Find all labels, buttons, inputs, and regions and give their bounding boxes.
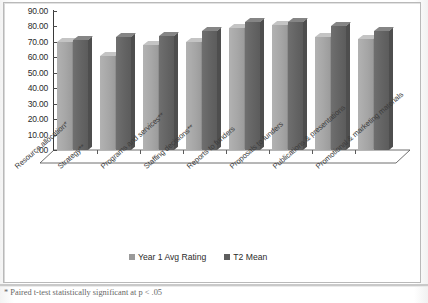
bar-t2mean xyxy=(245,22,260,150)
bar-side-face xyxy=(303,19,307,150)
page-edge-divider-shadow xyxy=(0,286,428,287)
bar-side-face xyxy=(88,37,92,150)
bar-front-face xyxy=(288,22,303,150)
x-axis-category-labels: Resource allocation*Strategy**Programs a… xyxy=(0,150,428,250)
bar-t2mean xyxy=(374,31,389,150)
y-axis-tick-mark xyxy=(53,135,57,136)
y-axis-tick-mark xyxy=(53,11,57,12)
y-axis-tick-label: 20.00 xyxy=(0,114,48,124)
y-axis-tick-mark xyxy=(53,119,57,120)
bar-t2mean xyxy=(331,26,346,150)
bar-side-face xyxy=(346,23,350,150)
y-axis-tick-label: 40.00 xyxy=(0,83,48,93)
legend-swatch-icon-t2mean xyxy=(224,254,230,260)
bar-front-face xyxy=(331,26,346,150)
chart-legend: Year 1 Avg Rating T2 Mean xyxy=(129,252,267,262)
bar-side-face xyxy=(389,28,393,150)
y-axis-tick-mark xyxy=(53,42,57,43)
bar-t2mean xyxy=(288,22,303,150)
bar-t2mean xyxy=(116,37,131,150)
bar-side-face xyxy=(260,19,264,150)
legend-swatch-icon-year1 xyxy=(129,254,135,260)
bar-front-face xyxy=(374,31,389,150)
legend-label-t2mean: T2 Mean xyxy=(233,252,267,262)
legend-item-t2mean: T2 Mean xyxy=(224,252,267,262)
bar-front-face xyxy=(202,31,217,150)
legend-label-year1: Year 1 Avg Rating xyxy=(138,252,206,262)
bar-front-face xyxy=(159,36,174,150)
y-axis-tick-label: 30.00 xyxy=(0,99,48,109)
y-axis-tick-label: 90.00 xyxy=(0,6,48,16)
y-axis-tick-mark xyxy=(53,57,57,58)
bar-front-face xyxy=(100,56,115,150)
y-axis-tick-label: 50.00 xyxy=(0,68,48,78)
bar-group xyxy=(100,11,143,150)
y-axis-tick-label: 60.00 xyxy=(0,52,48,62)
bar-t2mean xyxy=(73,40,88,150)
y-axis-tick-label: 80.00 xyxy=(0,21,48,31)
bar-front-face xyxy=(73,40,88,150)
y-axis-tick-mark xyxy=(53,26,57,27)
y-axis-tick-label: 70.00 xyxy=(0,37,48,47)
figure-root: 90.0080.0070.0060.0050.0040.0030.0020.00… xyxy=(0,0,428,303)
y-axis-tick-mark xyxy=(53,150,57,151)
bar-t2mean xyxy=(202,31,217,150)
legend-item-year1: Year 1 Avg Rating xyxy=(129,252,206,262)
y-axis-tick-mark xyxy=(53,88,57,89)
bar-front-face xyxy=(116,37,131,150)
bar-year1 xyxy=(100,56,115,150)
bar-t2mean xyxy=(159,36,174,150)
chart-footnote: * Paired t-test statistically significan… xyxy=(4,288,162,297)
y-axis-tick-mark xyxy=(53,104,57,105)
y-axis-tick-mark xyxy=(53,73,57,74)
bar-front-face xyxy=(245,22,260,150)
